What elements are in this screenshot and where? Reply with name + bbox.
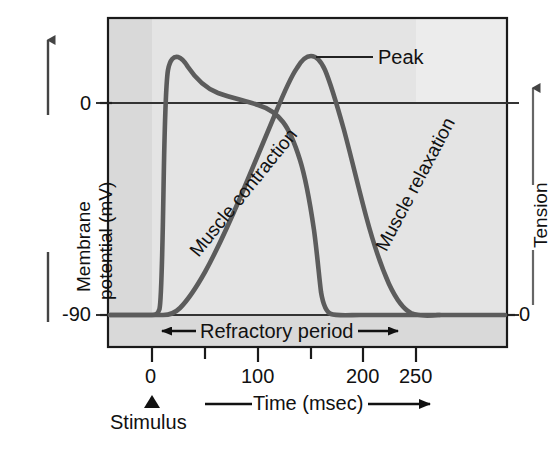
y-tick-label-0: 0: [80, 93, 91, 113]
peak-label: Peak: [378, 47, 424, 67]
x-axis-ticks: [152, 347, 416, 362]
x-tick-label-200: 200: [346, 366, 379, 386]
x-tick-label-250: 250: [399, 366, 432, 386]
x-tick-label-100: 100: [241, 366, 274, 386]
y2-axis-label: Tension: [531, 183, 550, 249]
y-axis-label-line2: potential (mV): [96, 182, 115, 300]
y2-tick-label-0: 0: [519, 304, 530, 324]
y-axis-label-line1: Membrane: [74, 201, 93, 292]
x-tick-label-0: 0: [145, 366, 156, 386]
action-potential-tension-figure: Membrane potential (mV) 0 -90 Tension 0 …: [0, 0, 559, 467]
y-tick-label-minus90: -90: [62, 304, 91, 324]
x-axis-label: Time (msec): [253, 393, 363, 413]
upper-right-block: [416, 18, 507, 103]
refractory-period-label: Refractory period: [200, 321, 353, 341]
stimulus-label: Stimulus: [110, 412, 187, 432]
stimulus-marker-icon: [144, 395, 160, 408]
